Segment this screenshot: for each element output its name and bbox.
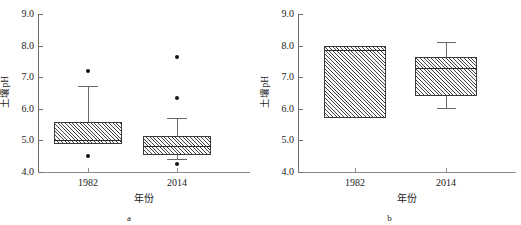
y-tick-mark	[39, 14, 43, 15]
x-axis-title: 年份	[298, 194, 516, 204]
whisker-cap-upper	[78, 86, 98, 87]
x-axis-title: 年份	[38, 194, 250, 204]
x-axis-line	[38, 172, 250, 173]
box-1982	[324, 46, 386, 118]
y-tick-label: 9.0	[8, 9, 34, 19]
y-tick-mark	[39, 109, 43, 110]
y-tick-mark	[39, 140, 43, 141]
y-tick-mark	[299, 77, 303, 78]
outlier-point	[175, 55, 179, 59]
outlier-point	[86, 154, 90, 158]
y-axis-line	[298, 14, 299, 173]
whisker-lower	[446, 96, 447, 108]
median-line-1982	[54, 140, 122, 141]
x-tick-mark	[355, 168, 356, 172]
y-tick-label: 4.0	[268, 167, 294, 177]
outlier-point	[175, 96, 179, 100]
x-tick-mark	[446, 168, 447, 172]
y-axis-line	[38, 14, 39, 173]
median-line-2014	[415, 68, 477, 69]
y-tick-label: 4.0	[8, 167, 34, 177]
y-tick-label: 8.0	[8, 41, 34, 51]
y-tick-label: 6.0	[8, 104, 34, 114]
y-tick-label: 9.0	[268, 9, 294, 19]
y-tick-mark	[299, 140, 303, 141]
y-tick-label: 8.0	[268, 41, 294, 51]
y-tick-mark	[39, 77, 43, 78]
y-tick-label: 6.0	[268, 104, 294, 114]
whisker-cap-upper	[437, 42, 456, 43]
panel-label-a: a	[0, 214, 258, 223]
y-tick-mark	[39, 172, 43, 173]
y-tick-label: 7.0	[268, 72, 294, 82]
whisker-cap-upper	[167, 118, 187, 119]
panel-a: 土壤pH 4.05.06.07.08.09.0 19822014 年份 a	[0, 0, 258, 225]
median-line-1982	[324, 50, 386, 51]
box-2014	[415, 57, 477, 97]
x-tick-label: 2014	[152, 178, 202, 188]
panel-b: 土壤pH 4.05.06.07.08.09.0 19822014 年份 b	[258, 0, 521, 225]
y-tick-mark	[299, 109, 303, 110]
y-tick-mark	[299, 46, 303, 47]
x-tick-mark	[177, 168, 178, 172]
whisker-cap-lower	[167, 159, 187, 160]
whisker-cap-lower	[437, 108, 456, 109]
x-tick-label: 1982	[63, 178, 113, 188]
x-tick-label: 2014	[421, 178, 471, 188]
y-tick-mark	[39, 46, 43, 47]
y-tick-label: 7.0	[8, 72, 34, 82]
median-line-2014	[143, 146, 211, 147]
whisker-upper	[446, 42, 447, 57]
whisker-upper	[177, 118, 178, 135]
panel-label-b: b	[258, 214, 521, 223]
y-tick-mark	[299, 172, 303, 173]
y-tick-label: 5.0	[268, 135, 294, 145]
x-tick-mark	[88, 168, 89, 172]
whisker-upper	[88, 86, 89, 122]
x-tick-label: 1982	[330, 178, 380, 188]
outlier-point	[86, 69, 90, 73]
x-axis-line	[298, 172, 516, 173]
boxplot-figure: 土壤pH 4.05.06.07.08.09.0 19822014 年份 a 土壤…	[0, 0, 521, 225]
y-tick-label: 5.0	[8, 135, 34, 145]
y-tick-mark	[299, 14, 303, 15]
outlier-point	[175, 162, 179, 166]
